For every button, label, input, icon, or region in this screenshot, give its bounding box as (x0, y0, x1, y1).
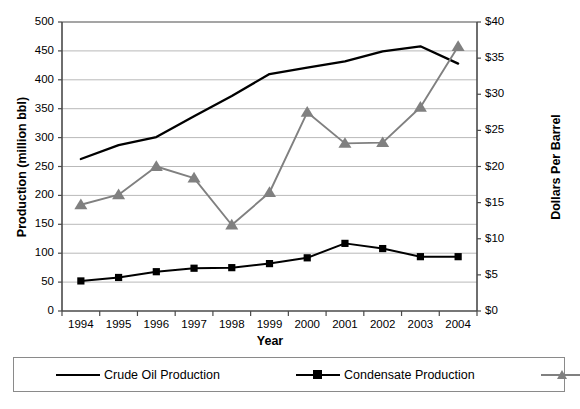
data-point-marker (150, 160, 163, 171)
legend-triangle-marker-icon (557, 370, 567, 379)
y-axis-right-tick-label: $40 (485, 16, 519, 27)
data-point-marker (112, 188, 125, 199)
data-point-marker (263, 186, 276, 197)
series-line-1 (81, 46, 458, 159)
y-axis-right-tick-label: $5 (485, 269, 519, 280)
legend-item[interactable]: Crude Oil Production (56, 368, 220, 382)
data-point-marker (190, 265, 197, 272)
legend-item[interactable]: Condensate Production (296, 368, 475, 382)
data-point-marker (341, 240, 348, 247)
data-point-marker (301, 106, 314, 117)
y-axis-right-tick-label: $20 (485, 161, 519, 172)
data-point-marker (228, 264, 235, 271)
y-axis-right-tick-label: $30 (485, 88, 519, 99)
data-point-marker (452, 40, 465, 51)
legend-line (56, 374, 100, 376)
y-axis-left-tick-label: 400 (20, 74, 54, 85)
y-axis-right-tick-label: $25 (485, 124, 519, 135)
data-point-marker (115, 274, 122, 281)
legend-item-label: Crude Oil Production (104, 368, 220, 382)
data-point-marker (77, 277, 84, 284)
chart-container: Production (million bbl) Dollars Per Bar… (0, 0, 580, 409)
y-axis-left-tick-label: 450 (20, 45, 54, 56)
y-axis-right-tick-label: $15 (485, 197, 519, 208)
y-axis-right-tick-label: $35 (485, 52, 519, 63)
data-point-marker (266, 260, 273, 267)
y-axis-left-tick-label: 350 (20, 103, 54, 114)
y-axis-right-tick-label: $0 (485, 305, 519, 316)
x-axis-tick-label: 2004 (435, 319, 481, 330)
data-point-marker (455, 253, 462, 260)
line-triangle-icon (541, 368, 580, 382)
y-axis-left-tick-label: 150 (20, 218, 54, 229)
y-axis-left-tick-label: 300 (20, 132, 54, 143)
line-icon (56, 368, 100, 382)
y-axis-left-tick-label: 0 (20, 305, 54, 316)
data-point-marker (153, 268, 160, 275)
data-point-marker (414, 101, 427, 112)
y-axis-left-tick-label: 250 (20, 161, 54, 172)
data-point-marker (417, 253, 424, 260)
line-square-icon (296, 368, 340, 382)
legend-item[interactable]: OCS Wellhead Price (541, 368, 580, 382)
y-axis-right-tick-label: $10 (485, 233, 519, 244)
data-point-marker (379, 245, 386, 252)
chart-legend: Crude Oil ProductionCondensate Productio… (13, 357, 565, 392)
y-axis-left-tick-label: 100 (20, 247, 54, 258)
y-axis-left-tick-label: 200 (20, 189, 54, 200)
data-point-marker (304, 254, 311, 261)
legend-square-marker-icon (313, 370, 322, 379)
legend-item-label: Condensate Production (344, 368, 475, 382)
y-axis-left-tick-label: 50 (20, 276, 54, 287)
y-axis-left-tick-label: 500 (20, 16, 54, 27)
